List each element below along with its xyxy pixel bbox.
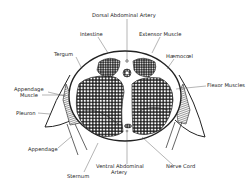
label-tergum: Tergum <box>54 51 73 57</box>
label-pleuron: Pleuron <box>16 110 36 116</box>
label-intestine: Intestine <box>80 31 103 37</box>
label-flexor-muscles: Flexor Muscles <box>207 82 245 88</box>
label-dorsal-abdominal-artery: Dorsal Abdominal Artery <box>92 12 156 18</box>
label-appendage: Appendage <box>28 146 58 152</box>
label-sternum: Sternum <box>67 173 89 179</box>
label-nerve-cord: Nerve Cord <box>166 163 195 169</box>
label-ventral-abdominal-artery-line2: Artery <box>111 169 127 175</box>
label-extensor-muscle: Extensor Muscle <box>139 31 181 37</box>
label-haemocoel: Hæmocœl <box>166 53 193 59</box>
label-appendage-muscle-line2: Muscle <box>20 92 38 98</box>
